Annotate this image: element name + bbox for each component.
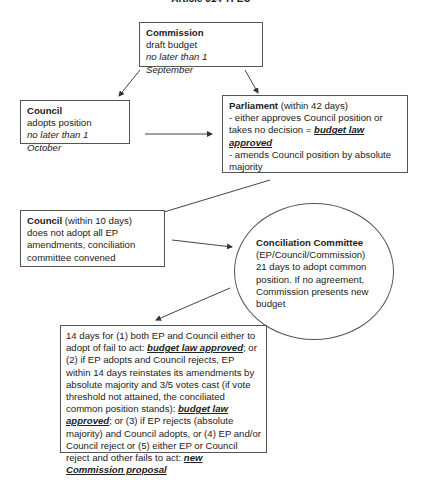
commission-heading: Commission [146, 27, 256, 39]
conciliation-members: (EP/Council/Commission) [256, 249, 378, 261]
conciliation-heading: Conciliation Committee [256, 237, 378, 249]
outcome-emph1: budget law approved [147, 342, 243, 353]
council-amendments-box: Council (within 10 days) does not adopt … [20, 210, 165, 267]
council-position-box: Council adopts position no later than 1 … [20, 100, 130, 144]
council-heading: Council [27, 105, 123, 117]
council-deadline: no later than 1 October [27, 129, 123, 153]
parliament-heading: Parliament [229, 100, 278, 111]
council-line1: adopts position [27, 117, 123, 129]
commission-deadline: no later than 1 September [146, 51, 256, 75]
outcome-box: 14 days for (1) both EP and Council eith… [60, 325, 267, 453]
council2-body: does not adopt all EP amendments, concil… [27, 227, 158, 264]
parliament-box: Parliament (within 42 days) - either app… [222, 95, 408, 173]
council2-heading: Council [27, 215, 62, 226]
commission-line1: draft budget [146, 39, 256, 51]
conciliation-body: 21 days to adopt common position. If no … [256, 261, 378, 310]
parliament-line2: - amends Council position by absolute ma… [229, 149, 401, 173]
parliament-timeframe: (within 42 days) [278, 100, 348, 111]
conciliation-committee-text: Conciliation Committee (EP/Council/Commi… [256, 237, 378, 310]
commission-box: Commission draft budget no later than 1 … [139, 22, 263, 67]
council2-timeframe: (within 10 days) [62, 215, 132, 226]
